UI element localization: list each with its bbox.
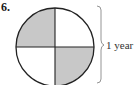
fraction-circle <box>16 8 94 85</box>
brace-icon <box>97 6 104 83</box>
shaded-quadrant-bottom-right <box>55 47 94 85</box>
brace-label: 1 year <box>106 39 133 51</box>
